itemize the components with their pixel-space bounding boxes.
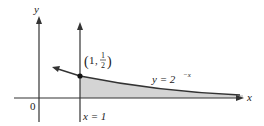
svg-text:1: 1	[89, 54, 95, 66]
y-axis-label: y	[33, 3, 39, 15]
graph-canvas: y x 0 ( 1 , 1 2 ) y = 2 −x x = 1	[0, 0, 264, 126]
svg-text:−x: −x	[183, 71, 192, 79]
origin-label: 0	[30, 100, 36, 112]
equation-label: y = 2 −x	[151, 71, 192, 85]
curve-arrow-icon	[52, 66, 60, 72]
y-axis-arrow-icon	[36, 16, 42, 24]
vertical-line-arrow-icon	[77, 22, 83, 30]
svg-text:,: ,	[95, 54, 98, 66]
svg-text:2: 2	[101, 61, 105, 70]
x-axis-label: x	[246, 91, 252, 103]
svg-text:1: 1	[101, 51, 105, 60]
point-label: ( 1 , 1 2 )	[84, 51, 112, 70]
vertical-line-label: x = 1	[82, 110, 106, 122]
point-marker	[77, 73, 82, 78]
svg-text:): )	[107, 54, 112, 70]
svg-text:y = 2: y = 2	[151, 73, 176, 85]
